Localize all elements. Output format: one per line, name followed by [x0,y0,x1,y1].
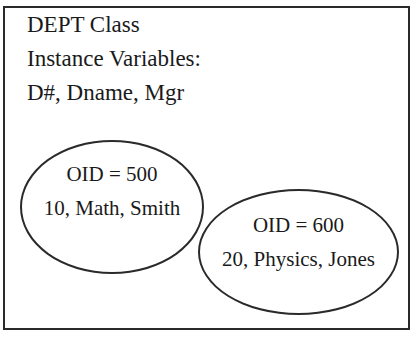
object-values: 20, Physics, Jones [200,247,397,272]
object-oid: OID = 500 [22,162,202,187]
object-ellipse-500: OID = 500 10, Math, Smith [20,140,204,274]
object-values: 10, Math, Smith [22,196,202,221]
instance-variables-list: D#, Dname, Mgr [27,78,184,108]
object-ellipse-600: OID = 600 20, Physics, Jones [198,189,399,315]
object-oid: OID = 600 [200,213,397,238]
class-title: DEPT Class [27,10,140,40]
instance-variables-label: Instance Variables: [27,44,201,74]
